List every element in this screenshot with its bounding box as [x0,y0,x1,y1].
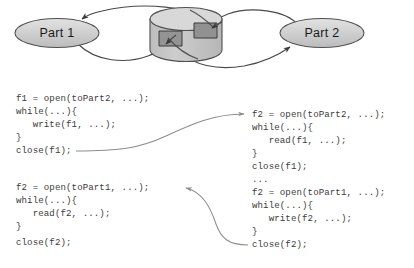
code-line: write(f1, ...); [16,119,116,130]
code-line: read(f1, ...); [252,135,346,146]
code-line: write(f2, ...); [252,213,352,224]
left-upper-code-block: f1 = open(toPart2, ...); while(...){ wri… [16,93,149,156]
code-line: close(f1); [16,145,72,156]
node-part1: Part 1 [15,19,99,48]
arc-part2-to-store [212,10,298,25]
code-line: ... [252,174,269,185]
connector-close-f2-to-left-open [186,188,248,245]
code-line: while(...){ [16,195,77,206]
code-line: while(...){ [252,200,313,211]
part1-label: Part 1 [39,26,74,40]
right-code-block: f2 = open(toPart2, ...); while(...){ rea… [252,109,385,250]
code-line: read(f2, ...); [16,208,110,219]
code-line: f2 = open(toPart1, ...); [16,182,149,193]
code-line: close(f2); [252,239,308,250]
node-part2: Part 2 [280,19,364,48]
communication-diagram: Part 1 Part 2 f1 = open(toPart2, ...); [0,0,414,268]
store-region-left [159,31,182,46]
left-lower-code-block: f2 = open(toPart1, ...); while(...){ rea… [16,182,149,248]
part2-label: Part 2 [304,26,339,40]
code-line: } [252,226,258,237]
code-line: } [252,148,258,159]
store-region-right [194,23,217,38]
code-line: close(f1); [252,161,308,172]
code-line: } [16,132,22,143]
code-line: while(...){ [16,106,77,117]
code-line: } [16,221,22,232]
figure-container: Part 1 Part 2 f1 = open(toPart2, ...); [0,0,414,268]
code-line: while(...){ [252,122,313,133]
code-line: close(f2); [16,237,72,248]
code-line: f2 = open(toPart1, ...); [252,187,385,198]
code-line: f1 = open(toPart2, ...); [16,93,149,104]
code-line: f2 = open(toPart2, ...); [252,109,385,120]
